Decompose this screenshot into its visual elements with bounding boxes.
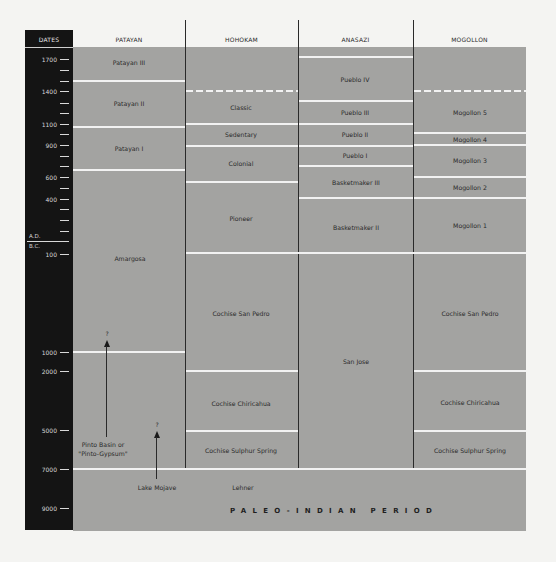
phase-label: Pueblo III — [341, 109, 369, 116]
tick-minor — [60, 231, 69, 232]
chart-area — [73, 47, 526, 531]
tick-9000 — [60, 508, 69, 509]
tick-label: 7000 — [42, 466, 57, 473]
phase-boundary — [414, 144, 526, 146]
phase-label: Mogollon 5 — [453, 109, 487, 116]
phase-label: Pioneer — [229, 215, 252, 222]
phase-label: Mogollon 2 — [453, 184, 487, 191]
tick-minor — [60, 188, 69, 189]
phase-label: Classic — [230, 104, 251, 111]
phase-label: Colonial — [229, 160, 254, 167]
tick-label: 1000 — [42, 349, 57, 356]
phase-boundary — [414, 370, 526, 372]
phase-label: Pueblo IV — [341, 76, 370, 83]
divider-patayan-hohokam — [185, 20, 186, 469]
phase-boundary — [299, 197, 413, 199]
paleo-indian-boundary — [73, 468, 526, 470]
phase-label: Cochise San Pedro — [212, 310, 269, 317]
ad-label: A.D. — [29, 233, 40, 239]
uncertain-boundary — [414, 90, 526, 92]
paleo-indian-period-label: PALEO-INDIAN PERIOD — [230, 507, 438, 515]
phase-boundary — [186, 145, 298, 147]
tick-2000 — [60, 371, 69, 372]
phase-boundary — [414, 197, 526, 199]
header-patayan: PATAYAN — [73, 36, 185, 43]
phase-boundary — [299, 123, 413, 125]
tick-label: 600 — [46, 174, 57, 181]
phase-label: Mogollon 3 — [453, 157, 487, 164]
divider-hohokam-anasazi — [298, 20, 299, 469]
phase-boundary — [73, 80, 185, 82]
phase-label: San Jose — [343, 358, 369, 365]
question-mark: ? — [105, 330, 108, 337]
tick-minor — [60, 209, 69, 210]
tick-minor — [60, 113, 69, 114]
arrow-up-icon — [104, 340, 110, 347]
tick-label: 1400 — [42, 88, 57, 95]
phase-boundary — [299, 100, 413, 102]
phase-label: Lehner — [232, 484, 253, 491]
phase-boundary — [299, 145, 413, 147]
tick-1000 — [60, 352, 69, 353]
phase-label: Mogollon 1 — [453, 222, 487, 229]
header-anasazi: ANASAZI — [298, 36, 413, 43]
tick-5000 — [60, 430, 69, 431]
phase-label: Sedentary — [225, 131, 257, 138]
ad-bc-divider — [27, 241, 69, 242]
tick-label: 9000 — [42, 505, 57, 512]
phase-label: Cochise Chiricahua — [440, 399, 499, 406]
phase-boundary — [73, 169, 185, 171]
header-mogollon: MOGOLLON — [413, 36, 526, 43]
tick-600 — [60, 177, 69, 178]
tick-100 — [60, 254, 69, 255]
tick-1400 — [60, 91, 69, 92]
tick-1700 — [60, 59, 69, 60]
header-hohokam: HOHOKAM — [185, 36, 298, 43]
tick-label: 400 — [46, 196, 57, 203]
phase-boundary — [299, 56, 413, 58]
tick-minor — [60, 134, 69, 135]
arrow-line — [106, 346, 107, 437]
uncertain-boundary — [186, 90, 298, 92]
phase-label: Patayan II — [114, 100, 144, 107]
phase-label: Cochise Sulphur Spring — [205, 447, 277, 454]
phase-boundary — [414, 176, 526, 178]
phase-boundary — [186, 123, 298, 125]
phase-label: Basketmaker III — [332, 179, 380, 186]
tick-minor — [60, 156, 69, 157]
phase-boundary — [73, 126, 185, 128]
tick-label: 1700 — [42, 56, 57, 63]
phase-label: Pueblo I — [343, 152, 368, 159]
bc-label: B.C. — [29, 243, 40, 249]
phase-label: Cochise San Pedro — [441, 310, 498, 317]
tick-minor — [60, 220, 69, 221]
tick-900 — [60, 145, 69, 146]
phase-label: Pueblo II — [342, 131, 368, 138]
phase-label: Cochise Sulphur Spring — [434, 447, 506, 454]
tick-label: 2000 — [42, 368, 57, 375]
chronology-chart: DATES PATAYAN HOHOKAM ANASAZI MOGOLLON A… — [0, 0, 556, 562]
phase-label: Pinto Basin or — [82, 441, 125, 448]
tick-7000 — [60, 469, 69, 470]
phase-boundary — [186, 181, 298, 183]
phase-label: Cochise Chiricahua — [211, 400, 270, 407]
phase-label: Patayan I — [115, 145, 144, 152]
tick-minor — [60, 166, 69, 167]
phase-boundary — [73, 351, 185, 353]
phase-boundary-ad-bc — [186, 252, 526, 254]
arrow-line — [156, 437, 157, 479]
phase-boundary — [299, 165, 413, 167]
phase-label: Mogollon 4 — [453, 136, 487, 143]
tick-label: 5000 — [42, 427, 57, 434]
phase-boundary — [414, 430, 526, 432]
tick-minor — [60, 70, 69, 71]
dates-header: DATES — [25, 36, 73, 43]
dates-separator — [25, 47, 73, 48]
tick-minor — [60, 103, 69, 104]
phase-label: "Pinto-Gypsum" — [78, 450, 127, 457]
phase-label: Basketmaker II — [333, 224, 379, 231]
tick-label: 1100 — [42, 121, 57, 128]
tick-400 — [60, 199, 69, 200]
tick-label: 100 — [46, 251, 57, 258]
phase-label: Patayan III — [113, 59, 145, 66]
